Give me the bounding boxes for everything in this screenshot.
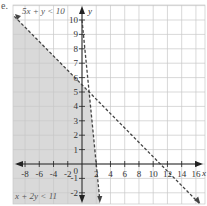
- origin-label: 0: [74, 166, 79, 176]
- y-tick-label: 2: [74, 130, 79, 140]
- inequality-label-1: 5x + y < 10: [22, 6, 65, 16]
- y-axis-arrow-up-icon: [79, 6, 85, 14]
- x-tick-label: -8: [21, 169, 29, 179]
- y-tick-label: 3: [74, 116, 79, 126]
- y-tick-label: 5: [74, 87, 79, 97]
- inequality-graph: -8-6-4-2246810121416-2-1123456789100xy5x…: [0, 0, 207, 206]
- y-tick-label: 10: [69, 15, 79, 25]
- x-tick-label: -6: [36, 169, 44, 179]
- x-tick-label: 6: [122, 169, 127, 179]
- x-tick-label: 8: [137, 169, 142, 179]
- x-tick-label: -4: [50, 169, 58, 179]
- x-tick-label: 10: [149, 169, 159, 179]
- y-tick-label: -2: [71, 188, 79, 198]
- x-axis-label: x: [201, 168, 206, 178]
- y-tick-label: 9: [74, 29, 79, 39]
- y-tick-label: 7: [74, 58, 79, 68]
- y-tick-label: 8: [74, 44, 79, 54]
- x-tick-label: 4: [108, 169, 113, 179]
- x-tick-label: 16: [191, 169, 201, 179]
- y-tick-label: 4: [74, 101, 79, 111]
- line-arrow-icon: [194, 197, 200, 204]
- y-tick-label: 1: [74, 145, 79, 155]
- inequality-label-2: x + 2y < 11: [14, 191, 57, 201]
- y-axis-label: y: [87, 6, 92, 16]
- x-tick-label: 14: [177, 169, 187, 179]
